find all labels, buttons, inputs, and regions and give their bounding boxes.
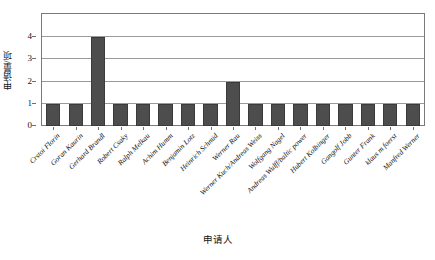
x-tick-mark	[76, 127, 77, 130]
bar	[338, 104, 352, 126]
x-tick-mark	[211, 127, 212, 130]
x-tick-mark	[143, 127, 144, 130]
y-tick-mark	[32, 125, 36, 126]
x-tick-mark	[188, 127, 189, 130]
bar	[136, 104, 150, 126]
x-tick-mark	[390, 127, 391, 130]
bar	[91, 37, 105, 126]
bar	[383, 104, 397, 126]
bar	[361, 104, 375, 126]
bar	[248, 104, 262, 126]
y-axis-title: 申请量/项	[2, 34, 18, 108]
bar	[293, 104, 307, 126]
x-tick-mark	[300, 127, 301, 130]
bar	[226, 82, 240, 126]
x-tick-mark	[121, 127, 122, 130]
x-tick-mark	[233, 127, 234, 130]
x-tick-mark	[98, 127, 99, 130]
y-tick-mark	[32, 103, 36, 104]
bar	[203, 104, 217, 126]
bar	[158, 104, 172, 126]
y-tick-mark	[32, 36, 36, 37]
bar	[69, 104, 83, 126]
bar	[271, 104, 285, 126]
x-tick-mark	[323, 127, 324, 130]
x-tick-mark	[413, 127, 414, 130]
x-tick-mark	[166, 127, 167, 130]
x-tick-mark	[53, 127, 54, 130]
bar-chart: 申请量/项 01234 Crstoi FlorinGoran KaurinGer…	[0, 0, 435, 260]
bars-container	[42, 14, 424, 126]
x-tick-mark	[278, 127, 279, 130]
x-tick-mark	[255, 127, 256, 130]
bar	[46, 104, 60, 126]
y-axis-ticks: 01234	[18, 13, 36, 126]
bar	[316, 104, 330, 126]
x-tick-mark	[345, 127, 346, 130]
x-tick-mark	[368, 127, 369, 130]
bar	[406, 104, 420, 126]
x-axis-title: 申请人	[0, 232, 435, 246]
bar	[113, 104, 127, 126]
y-tick-mark	[32, 58, 36, 59]
x-axis-labels: Crstoi FlorinGoran KaurinGerhard BrandlR…	[0, 127, 435, 227]
y-tick-mark	[32, 81, 36, 82]
bar	[181, 104, 195, 126]
